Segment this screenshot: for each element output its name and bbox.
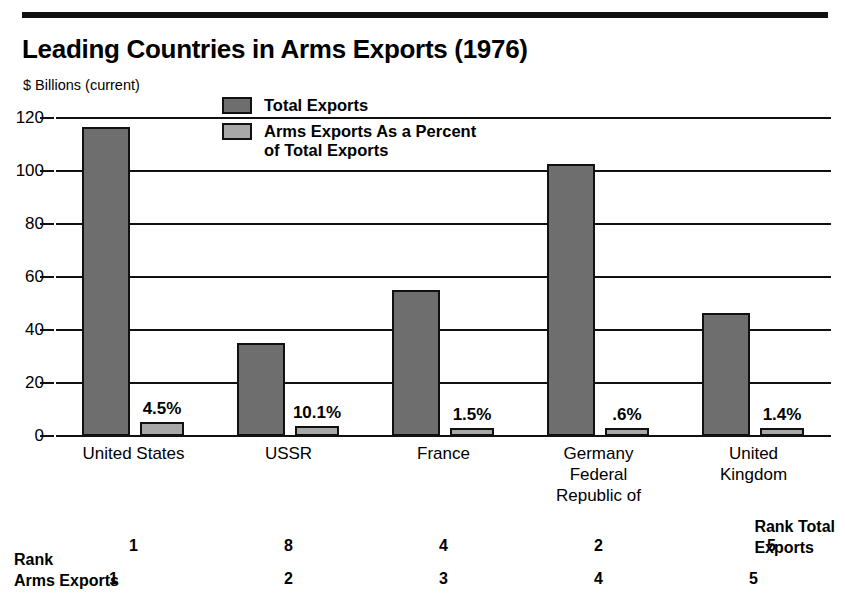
bar-total-exports bbox=[82, 127, 130, 436]
legend-label-total-exports: Total Exports bbox=[264, 96, 368, 115]
x-axis-category-labels: United StatesUSSRFranceGermany Federal R… bbox=[56, 443, 831, 513]
y-tick-mark-0 bbox=[40, 435, 54, 438]
x-axis-label-0: United States bbox=[82, 443, 184, 464]
data-label-arms-percent: 4.5% bbox=[143, 399, 182, 419]
y-tick-mark-120 bbox=[40, 117, 54, 120]
rank-arms-exports-value: 3 bbox=[439, 570, 448, 588]
rank-total-exports-value: 4 bbox=[439, 537, 448, 555]
rank-arms-exports-value: 2 bbox=[284, 570, 293, 588]
rank-total-exports-value: 5 bbox=[767, 537, 776, 555]
bar-arms-percent bbox=[140, 422, 184, 436]
data-label-arms-percent: 10.1% bbox=[293, 403, 341, 423]
gridline-120 bbox=[56, 117, 831, 120]
gridline-100 bbox=[56, 170, 831, 173]
chart-title: Leading Countries in Arms Exports (1976) bbox=[22, 34, 528, 65]
y-tick-mark-100 bbox=[40, 170, 54, 173]
bar-arms-percent bbox=[295, 426, 339, 436]
plot-area: 4.5%10.1%1.5%.6%1.4% bbox=[56, 118, 831, 436]
bar-arms-percent bbox=[605, 428, 649, 436]
rank-total-exports-value: 2 bbox=[594, 537, 603, 555]
gridline-60 bbox=[56, 276, 831, 279]
rank-total-exports-value: 8 bbox=[284, 537, 293, 555]
y-tick-mark-20 bbox=[40, 382, 54, 385]
rank-arms-exports-value: 4 bbox=[594, 570, 603, 588]
rank-total-exports-value: 1 bbox=[129, 537, 138, 555]
data-label-arms-percent: .6% bbox=[612, 405, 641, 425]
top-divider-rule bbox=[22, 12, 828, 18]
bar-total-exports bbox=[237, 343, 285, 436]
y-axis-tick-labels: 020406080100120 bbox=[0, 118, 44, 436]
y-tick-mark-40 bbox=[40, 329, 54, 332]
legend-swatch-total-exports bbox=[222, 97, 252, 114]
bar-arms-percent bbox=[450, 428, 494, 436]
gridline-80 bbox=[56, 223, 831, 226]
data-label-arms-percent: 1.5% bbox=[453, 405, 492, 425]
y-axis-unit-label: $ Billions (current) bbox=[23, 77, 140, 93]
bar-total-exports bbox=[392, 290, 440, 436]
x-axis-label-3: Germany Federal Republic of bbox=[556, 443, 641, 506]
x-axis-label-4: United Kingdom bbox=[720, 443, 787, 485]
rank-arms-exports-value: 5 bbox=[749, 570, 758, 588]
legend-item-total-exports: Total Exports bbox=[222, 96, 622, 115]
data-label-arms-percent: 1.4% bbox=[763, 405, 802, 425]
x-axis-label-2: France bbox=[417, 443, 470, 464]
y-tick-mark-60 bbox=[40, 276, 54, 279]
bar-arms-percent bbox=[760, 428, 804, 436]
rank-arms-exports-value: 1 bbox=[109, 570, 118, 588]
y-tick-mark-80 bbox=[40, 223, 54, 226]
bar-total-exports bbox=[547, 164, 595, 436]
x-axis-label-1: USSR bbox=[265, 443, 312, 464]
bar-total-exports bbox=[702, 313, 750, 436]
rank-arms-exports-label: Rank Arms Exports bbox=[14, 549, 119, 591]
